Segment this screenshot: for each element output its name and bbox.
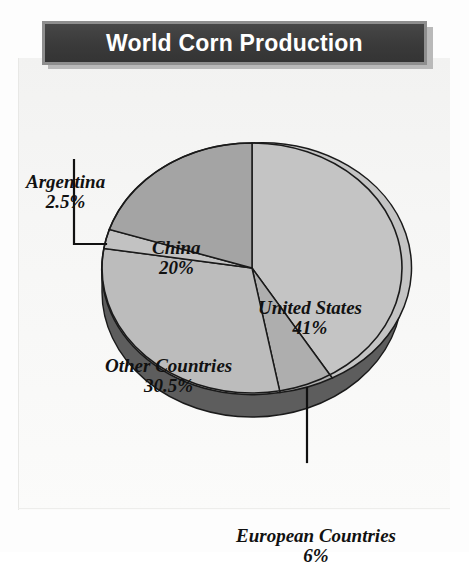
label-other-countries-value: 30.5% [105,376,232,396]
label-china-name: China [152,237,201,258]
label-european-countries: European Countries 6% [236,526,396,566]
label-european-countries-value: 6% [236,546,396,566]
label-argentina-name: Argentina [26,171,105,192]
title-banner-fill: World Corn Production [45,24,424,62]
label-argentina: Argentina 2.5% [26,172,105,212]
label-european-countries-name: European Countries [236,525,396,546]
label-china-value: 20% [152,258,201,278]
label-united-states-name: United States [258,297,362,318]
page-title: World Corn Production [106,30,363,57]
label-united-states: United States 41% [258,298,362,338]
label-united-states-value: 41% [258,318,362,338]
pie-chart-svg [0,58,469,510]
label-other-countries: Other Countries 30.5% [105,356,232,396]
label-argentina-value: 2.5% [26,192,105,212]
label-china: China 20% [152,238,201,278]
pie-chart: United States 41% China 20% Other Countr… [0,58,469,510]
label-other-countries-name: Other Countries [105,355,232,376]
